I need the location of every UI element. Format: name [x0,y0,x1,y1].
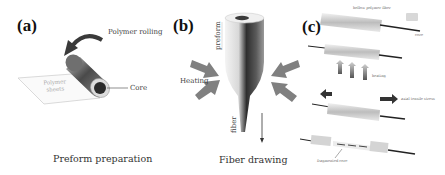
heating-arrows-right [271,60,300,102]
tensile-stress-arrows [320,89,398,104]
fiber-step3-stretched [312,103,405,121]
heating-label-c: heating [372,74,386,78]
draw-down-arrow-icon [260,113,264,143]
polymer-rolling-label: Polymer rolling [108,28,162,36]
fiber-step4-fragmented [300,135,415,158]
heating-up-arrows [336,60,369,80]
fragmented-core-label: fragmented core [317,159,347,163]
preform-draw-tower [225,13,264,132]
hollow-fiber-label: hollow polymer fiber [353,6,391,10]
hollow-fiber-step1 [320,13,420,32]
heating-label: Heating [180,77,208,85]
tensile-stress-label: axial tensile stress [401,97,435,101]
panel-label-c: (c) [302,17,321,37]
core-label: Core [130,84,147,92]
core-label-c: core [415,33,423,37]
panel-label-b: (b) [173,16,194,36]
caption-fiber-drawing: Fiber drawing [219,154,288,165]
preform-label: preform [214,21,222,50]
panel-label-a: (a) [17,16,37,36]
fiber-label: fiber [230,116,238,133]
fiber-step2 [308,44,402,60]
rolling-arrow-icon [64,36,102,56]
caption-preform-preparation: Preform preparation [53,153,152,164]
